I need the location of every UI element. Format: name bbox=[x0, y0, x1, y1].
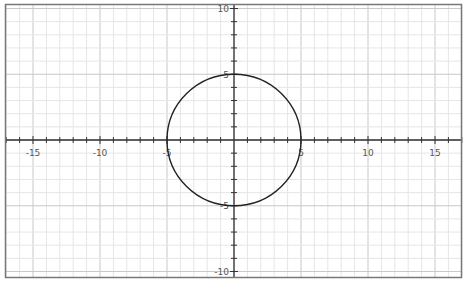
graph-canvas[interactable]: -15-10-551015105-5-10 bbox=[0, 0, 464, 283]
x-tick-label: 10 bbox=[362, 148, 374, 158]
x-tick-label: -10 bbox=[93, 148, 108, 158]
y-tick-label: 10 bbox=[218, 4, 230, 14]
y-tick-label: -5 bbox=[220, 201, 229, 211]
x-tick-label: -15 bbox=[26, 148, 41, 158]
y-tick-label: -10 bbox=[214, 267, 229, 277]
x-tick-label: 15 bbox=[429, 148, 440, 158]
